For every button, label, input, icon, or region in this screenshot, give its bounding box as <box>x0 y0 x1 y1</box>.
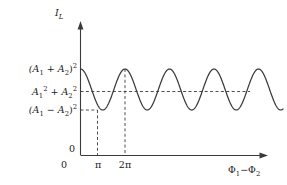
ytick-label-max: (A1 + A2)2 <box>0 64 77 74</box>
ytick-max-exponent: 2 <box>73 62 77 70</box>
ytick-max-op: + A <box>44 63 65 74</box>
interference-curve <box>81 69 284 110</box>
x-axis-title-phi2: Φ <box>248 164 256 175</box>
ytick-min-op: − A <box>44 104 65 115</box>
ytick-label-min: (A1 − A2)2 <box>0 105 77 115</box>
ytick-mid-exponent2: 2 <box>73 85 77 93</box>
ytick-mid-sub1: 1 <box>39 92 43 100</box>
ytick-mid-prefix: A <box>32 86 39 97</box>
xtick-label-2pi: 2π <box>114 160 136 170</box>
ytick-mid-sub2: 2 <box>68 92 72 100</box>
y-axis-title-subscript: L <box>59 13 64 21</box>
xtick-label-0: 0 <box>54 160 74 170</box>
xtick-label-pi: π <box>88 160 108 170</box>
interference-intensity-figure: IL (A1 + A2)2 A12 + A22 (A1 − A2)2 0 0 π… <box>0 0 287 185</box>
ytick-label-zero: 0 <box>55 144 75 154</box>
x-axis-title-minus: − <box>240 164 248 175</box>
ytick-label-mid: A12 + A22 <box>0 87 77 97</box>
x-axis-title: Φ1−Φ2 <box>228 165 260 175</box>
ytick-min-exponent: 2 <box>73 103 77 111</box>
x-axis-title-phi1: Φ <box>228 164 236 175</box>
x-axis-title-sub2: 2 <box>256 170 260 178</box>
ytick-max-prefix: (A <box>29 63 40 74</box>
ytick-mid-op: + A <box>47 86 68 97</box>
y-axis-title: IL <box>55 8 63 18</box>
y-axis <box>78 21 84 155</box>
x-axis <box>81 153 269 159</box>
ytick-min-prefix: (A <box>29 104 40 115</box>
